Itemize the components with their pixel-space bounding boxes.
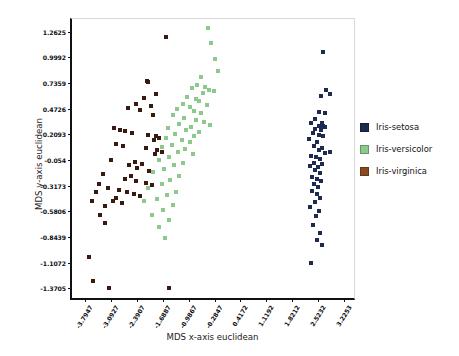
data-point (171, 113, 175, 117)
data-point (318, 171, 322, 175)
data-points-layer (72, 19, 354, 298)
data-point (317, 110, 321, 114)
data-point (127, 163, 131, 167)
data-point (155, 197, 159, 201)
data-point (150, 183, 154, 187)
data-point (323, 111, 327, 115)
data-point (307, 137, 311, 141)
data-point (315, 177, 319, 181)
data-point (111, 199, 115, 203)
data-point (91, 279, 95, 283)
data-point (162, 167, 166, 171)
data-point (151, 170, 155, 174)
data-point (107, 286, 111, 290)
x-axis-tick (266, 298, 267, 302)
data-point (328, 92, 332, 96)
data-point (321, 134, 325, 138)
data-point (144, 146, 148, 150)
x-axis-tick (344, 298, 345, 302)
data-point (166, 126, 170, 130)
data-point (167, 218, 171, 222)
data-point (147, 169, 151, 173)
data-point (163, 236, 167, 240)
mds-scatter-figure: 1.26250.99920.73590.47260.2093-0.054-0.3… (0, 0, 459, 356)
data-point (319, 94, 323, 98)
data-point (121, 144, 125, 148)
data-point (142, 96, 146, 100)
data-point (313, 117, 317, 121)
data-point (205, 103, 209, 107)
y-axis-tick (68, 186, 72, 187)
y-axis-tick (68, 134, 72, 135)
y-axis-tick-label: -0.8439 (40, 233, 66, 240)
data-point (130, 131, 134, 135)
data-point (171, 203, 175, 207)
data-point (184, 128, 188, 132)
data-point (319, 179, 323, 183)
data-point (199, 75, 203, 79)
data-point (181, 102, 185, 106)
data-point (188, 140, 192, 144)
data-point (189, 125, 193, 129)
data-point (311, 223, 315, 227)
data-point (328, 150, 332, 154)
y-axis-tick-label: -0.054 (44, 157, 66, 164)
data-point (146, 133, 150, 137)
data-point (209, 41, 213, 45)
y-axis-title: MDS y-axis euclidean (34, 64, 44, 264)
data-point (320, 162, 324, 166)
legend-item-setosa[interactable]: Iris-setosa (360, 116, 456, 138)
data-point (157, 225, 161, 229)
y-axis-tick-label: 0.9992 (43, 54, 66, 61)
data-point (317, 209, 321, 213)
legend-item-label: Iris-virginica (376, 166, 427, 176)
y-axis-tick-label: -0.5806 (40, 208, 66, 215)
data-point (112, 126, 116, 130)
x-axis-tick (189, 298, 190, 302)
legend-swatch-icon (360, 145, 369, 154)
legend-item-versicolor[interactable]: Iris-versicolor (360, 138, 456, 160)
x-axis-title: MDS x-axis euclidean (70, 332, 355, 342)
data-point (318, 196, 322, 200)
x-axis-tick (318, 298, 319, 302)
data-point (190, 86, 194, 90)
data-point (312, 144, 316, 148)
data-point (170, 143, 174, 147)
data-point (317, 148, 321, 152)
y-axis-tick-label: -1.1072 (40, 259, 66, 266)
data-point (123, 129, 127, 133)
y-axis-tick-label: 0.7359 (43, 80, 66, 87)
data-point (160, 182, 164, 186)
data-point (134, 102, 138, 106)
data-point (310, 175, 314, 179)
y-axis-tick (68, 288, 72, 289)
data-point (140, 162, 144, 166)
data-point (120, 201, 124, 205)
y-axis-tick (68, 160, 72, 161)
data-point (201, 91, 205, 95)
data-point (167, 286, 171, 290)
data-point (114, 142, 118, 146)
data-point (308, 205, 312, 209)
data-point (157, 136, 161, 140)
y-axis-tick (68, 57, 72, 58)
data-point (174, 190, 178, 194)
data-point (181, 161, 185, 165)
data-point (195, 83, 199, 87)
data-point (106, 186, 110, 190)
data-point (157, 158, 161, 162)
data-point (175, 107, 179, 111)
y-axis-tick-label: 0.4726 (43, 105, 66, 112)
data-point (129, 174, 133, 178)
y-axis-tick (68, 109, 72, 110)
data-point (323, 151, 327, 155)
data-point (192, 134, 196, 138)
data-point (192, 109, 196, 113)
legend-swatch-icon (360, 167, 369, 176)
data-point (309, 121, 313, 125)
data-point (152, 138, 156, 142)
data-point (138, 194, 142, 198)
legend-item-virginica[interactable]: Iris-virginica (360, 160, 456, 182)
data-point (319, 128, 323, 132)
data-point (117, 188, 121, 192)
